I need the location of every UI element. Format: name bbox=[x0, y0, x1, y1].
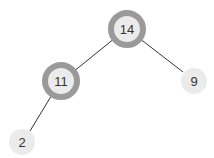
tree-node-14: 14 bbox=[110, 12, 144, 46]
node-label: 9 bbox=[190, 74, 197, 89]
edge-14-9 bbox=[139, 38, 183, 72]
binary-tree-diagram: 14 11 9 2 bbox=[0, 0, 214, 158]
tree-node-2: 2 bbox=[9, 129, 35, 155]
node-label: 11 bbox=[54, 74, 68, 89]
node-label: 2 bbox=[18, 135, 25, 150]
edge-11-2 bbox=[30, 93, 53, 131]
node-label: 14 bbox=[120, 22, 134, 37]
tree-node-9: 9 bbox=[181, 68, 207, 94]
edge-14-11 bbox=[73, 38, 115, 72]
tree-node-11: 11 bbox=[44, 64, 78, 98]
